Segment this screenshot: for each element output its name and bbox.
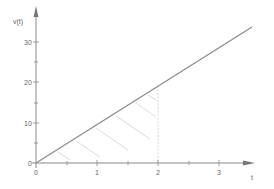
x-axis-arrow-icon [243,161,255,166]
velocity-time-chart: v(t) t 30 20 10 0 0 1 2 3 [0,0,274,189]
hatched-area [58,95,156,160]
y-tick-label-10: 10 [24,120,32,127]
x-tick-label-2: 2 [156,169,160,176]
x-axis-label: t [251,174,253,181]
v-of-t-line [36,27,252,163]
y-tick-label-0: 0 [28,160,32,167]
x-tick-label-1: 1 [95,169,99,176]
y-axis-arrow-icon [34,6,39,17]
y-tick-label-20: 20 [24,79,32,86]
x-tick-label-3: 3 [217,169,221,176]
y-axis-label: v(t) [13,18,23,26]
x-tick-label-0: 0 [34,169,38,176]
y-tick-label-30: 30 [24,39,32,46]
